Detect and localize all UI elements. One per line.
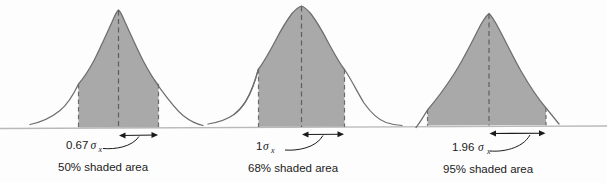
caption-shaded-area-2: 68% shaded area [248, 162, 339, 174]
caption-shaded-area-3: 95% shaded area [443, 163, 534, 175]
dimension-arrow-2 [302, 131, 344, 137]
figure-canvas: 0.67 σ x 50% shaded area 1 σ x 68 [0, 0, 607, 183]
sigma-label-subscript-2: x [270, 146, 275, 155]
leader-line-1 [103, 137, 139, 149]
sigma-label-subscript-3: x [486, 147, 491, 156]
caption-shaded-area-1: 50% shaded area [58, 161, 149, 173]
sigma-label-value-2: 1 [256, 140, 262, 152]
leader-line-3 [490, 135, 530, 151]
sigma-label-value-3: 1.96 [452, 141, 474, 153]
dimension-arrow-3 [490, 130, 546, 136]
sigma-label-symbol-1: σ [91, 139, 98, 151]
sigma-label-value-1: 0.67 [66, 139, 88, 151]
panel-0.67-sigma: 0.67 σ x 50% shaded area [30, 10, 203, 173]
panel-1-sigma: 1 σ x 68% shaded area [208, 6, 402, 174]
leader-line-2 [285, 136, 323, 151]
shaded-area-95 [428, 14, 547, 126]
sigma-label-subscript-1: x [98, 145, 103, 154]
normal-distribution-figure: 0.67 σ x 50% shaded area 1 σ x 68 [0, 0, 607, 183]
panel-1.96-sigma: 1.96 σ x 95% shaded area [416, 14, 559, 176]
sigma-label-symbol-2: σ [263, 140, 270, 152]
sigma-label-symbol-3: σ [478, 141, 485, 153]
normal-curve-tail-left-2 [234, 69, 259, 115]
